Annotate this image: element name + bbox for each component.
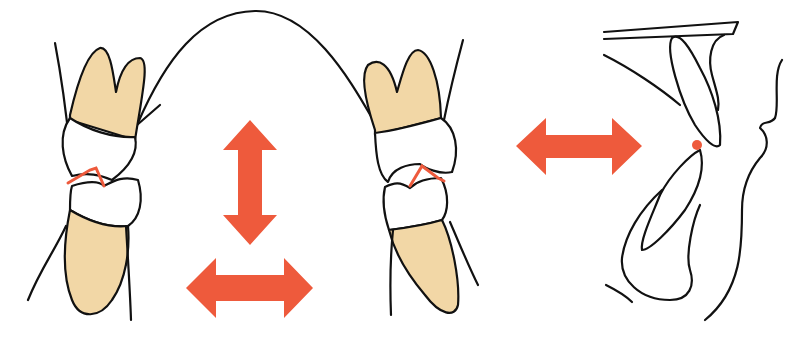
vertical-arrow: [223, 120, 277, 245]
horizontal-arrow-right: [516, 118, 642, 175]
dental-occlusion-diagram: Dental occlusion diagram: two side-view …: [0, 0, 808, 349]
horizontal-arrow-bottom: [186, 258, 313, 318]
profile-view: [604, 22, 782, 320]
right-tooth-pair: [364, 50, 478, 315]
left-tooth-pair: [28, 48, 145, 320]
incisal-contact-point: [692, 140, 702, 150]
